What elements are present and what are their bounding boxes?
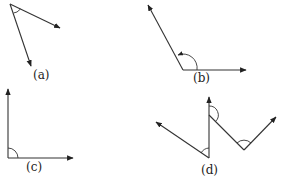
angle-b: (b) — [148, 5, 246, 85]
angle-arc-icon — [201, 148, 209, 153]
angle-arc-icon — [178, 54, 197, 70]
label-a: (a) — [33, 68, 50, 82]
segment — [209, 115, 244, 150]
label-b: (b) — [193, 71, 210, 85]
angle-arc-icon — [237, 140, 251, 143]
ray-arrow-icon — [148, 5, 183, 70]
angle-figure: (a) (b) (c) (d) — [0, 0, 281, 179]
ray-arrow-icon — [244, 117, 276, 150]
ray-arrow-icon — [10, 4, 60, 28]
angle-arc-icon — [8, 148, 18, 158]
angle-arc-icon — [14, 9, 21, 13]
ray-arrow-icon — [10, 4, 31, 66]
angle-a: (a) — [10, 4, 60, 82]
label-c: (c) — [26, 160, 42, 174]
label-d: (d) — [201, 163, 218, 177]
angle-d: (d) — [156, 97, 276, 177]
angle-c: (c) — [8, 89, 73, 174]
